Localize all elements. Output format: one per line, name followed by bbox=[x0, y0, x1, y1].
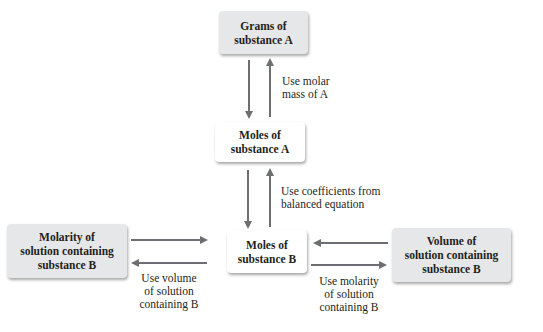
node-moles-of-substance-b: Moles of substance B bbox=[227, 230, 307, 273]
node-moles-of-substance-a: Moles of substance A bbox=[215, 122, 305, 162]
node-molarity-of-solution-b: Molarity of solution containing substanc… bbox=[7, 224, 127, 278]
node-volume-of-solution-b: Volume of solution containing substance … bbox=[392, 228, 511, 282]
edge-label-molar-mass: Use molar mass of A bbox=[282, 75, 330, 101]
edge-label-coefficients: Use coefficients from balanced equation bbox=[281, 185, 380, 211]
node-label: Volume of solution containing substance … bbox=[405, 234, 499, 276]
node-label: Molarity of solution containing substanc… bbox=[20, 230, 114, 272]
edge-label-use-volume: Use volume of solution containing B bbox=[130, 272, 208, 311]
node-label: Moles of substance A bbox=[231, 128, 289, 156]
node-label: Moles of substance B bbox=[238, 238, 296, 266]
node-grams-of-substance-a: Grams of substance A bbox=[219, 11, 308, 54]
edge-label-use-molarity: Use molarity of solution containing B bbox=[308, 275, 390, 314]
node-label: Grams of substance A bbox=[234, 19, 292, 47]
